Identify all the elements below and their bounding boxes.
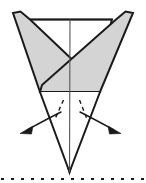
- center-crease-line: [70, 20, 71, 173]
- origami-diagram-figure: Origami fold step: fold both flaps outwa…: [0, 0, 146, 183]
- origami-fold-illustration: [0, 0, 146, 183]
